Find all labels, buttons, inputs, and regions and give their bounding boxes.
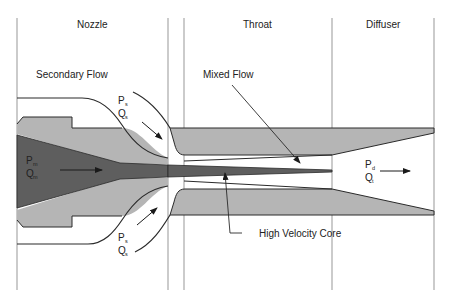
mixed-flow-label: Mixed Flow [203, 69, 254, 80]
secondary-top-pressure: P [118, 95, 125, 106]
lower-throat-diffuser-wall [170, 189, 434, 215]
secondary-top-pressure-sub: s [125, 101, 128, 107]
secondary-inlet-guide-upper [133, 92, 170, 128]
secondary-top-flowrate-sub: s [125, 114, 128, 120]
secondary-flow-arrow-lower [137, 208, 157, 225]
secondary-bottom-flowrate-sub: s [125, 251, 128, 257]
section-label-throat: Throat [243, 19, 272, 30]
high-velocity-core [168, 165, 332, 177]
mixing-boundary-upper [184, 155, 332, 161]
discharge-pressure: P [365, 159, 372, 170]
discharge-pressure-sub: d [372, 165, 375, 171]
mixing-boundary-lower [184, 181, 332, 189]
ejector-diagram: Nozzle Throat Diffuser Secondary Flow Mi… [0, 0, 450, 305]
secondary-inlet-guide-lower [135, 215, 170, 252]
upper-throat-diffuser-wall [170, 128, 434, 155]
secondary-top-stream-symbols: P s Q s [118, 95, 128, 120]
high-velocity-core-label: High Velocity Core [259, 228, 342, 239]
motive-pressure-sub: m [33, 161, 38, 167]
secondary-bottom-pressure-sub: s [125, 238, 128, 244]
secondary-flow-label: Secondary Flow [36, 69, 108, 80]
secondary-bottom-pressure: P [118, 232, 125, 243]
discharge-stream-symbols: P d Q t [365, 159, 375, 184]
secondary-flow-arrow-upper [142, 122, 162, 139]
discharge-flowrate-sub: t [372, 178, 374, 184]
section-label-diffuser: Diffuser [366, 19, 401, 30]
secondary-bottom-stream-symbols: P s Q s [118, 232, 128, 257]
motive-flowrate-sub: m [33, 174, 38, 180]
section-label-nozzle: Nozzle [77, 19, 108, 30]
motive-pressure: P [26, 155, 33, 166]
